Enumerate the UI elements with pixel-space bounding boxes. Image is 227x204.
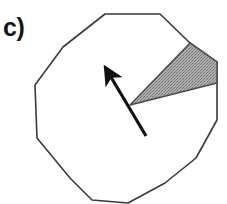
polygon-outline (35, 14, 217, 203)
polygon-sector-diagram (0, 0, 227, 204)
shaded-sector (130, 43, 217, 105)
figure-panel: c) (0, 0, 227, 204)
panel-label: c) (3, 15, 24, 40)
